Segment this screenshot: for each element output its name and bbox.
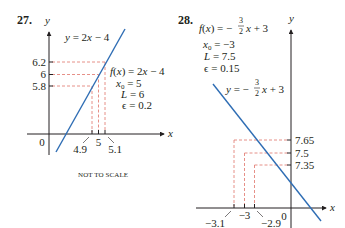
- curve-label-suffix: x + 3: [261, 83, 285, 95]
- x-tick-label: −2.9: [261, 217, 281, 228]
- given-fraction-den: 2: [239, 27, 243, 36]
- x-tick-label: −3: [239, 209, 251, 221]
- given-function-suffix: x + 3: [245, 22, 269, 34]
- x-axis-label: x: [329, 201, 335, 213]
- epsilon-guides: [52, 62, 105, 132]
- y-tick-label: 7.35: [295, 159, 315, 171]
- y-tick-label: 6: [41, 68, 47, 80]
- y-axis-label: y: [44, 14, 50, 26]
- figure-number: 28.: [178, 13, 193, 27]
- y-tick-label: 6.2: [32, 56, 46, 68]
- y-tick-label: 7.5: [295, 147, 309, 159]
- figure-27: 27. y x 6.2 6 5.8: [17, 13, 173, 179]
- y-tick-marks: [49, 62, 53, 86]
- figure-number: 27.: [17, 13, 32, 27]
- x-tick-label: 5.1: [108, 143, 122, 155]
- given-fraction-num: 3: [239, 16, 243, 25]
- y-tick-label: 7.65: [295, 134, 315, 146]
- y-tick-label: 5.8: [32, 80, 46, 92]
- x-axis-label: x: [167, 127, 173, 139]
- given-epsilon: ϵ = 0.15: [204, 62, 240, 74]
- given-epsilon: ϵ = 0.2: [122, 99, 152, 111]
- given-function: f(x) = −: [199, 22, 232, 35]
- origin-label: 0: [39, 136, 45, 148]
- curve-fraction-num: 3: [255, 78, 259, 87]
- y-axis-label: y: [288, 12, 294, 24]
- curve-label: y = 2x − 4: [64, 31, 110, 43]
- curve-label: y = −: [225, 83, 249, 95]
- x-tick-label: 4.9: [73, 143, 87, 155]
- epsilon-guides: [234, 140, 288, 206]
- figure-28: 28. f(x) = − 3 2 x + 3 x0 = −3 L = 7.5 ϵ…: [178, 12, 335, 228]
- x-tick-label: −3.1: [205, 217, 225, 228]
- curve-fraction-den: 2: [255, 89, 259, 98]
- given-L: L = 7.5: [203, 50, 236, 62]
- y-tick-marks: [287, 140, 291, 165]
- diagram-canvas: 27. y x 6.2 6 5.8: [0, 0, 345, 228]
- x-tick-label: 5: [96, 136, 102, 148]
- not-to-scale-note: NOT TO SCALE: [78, 171, 128, 179]
- origin-label: 0: [281, 210, 287, 222]
